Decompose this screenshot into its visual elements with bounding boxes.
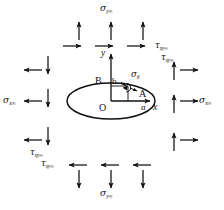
tau-xy-top-right-label-1: τxy∞ (155, 41, 168, 50)
origin-label: O (99, 103, 106, 113)
stress-diagram-canvas (0, 0, 224, 210)
sigma-y-bottom-label: σy∞ (100, 189, 112, 198)
sigma-x-right-label: σx∞ (199, 96, 211, 105)
y-axis-label: y (101, 49, 105, 59)
sigma-x-left-label: σx∞ (3, 96, 15, 105)
point-a-label: A (139, 89, 146, 99)
point-b-label: B (95, 76, 102, 86)
right-tension-arrows (180, 70, 198, 140)
tau-xy-bottom-left-label-2: τxy∞ (41, 159, 54, 168)
semi-axis-a-label: a (141, 103, 146, 112)
top-tension-arrows (79, 22, 143, 40)
semi-axis-b-label: b (112, 77, 117, 86)
left-tension-arrows (24, 70, 42, 140)
tau-xy-top-right-label-2: τxy∞ (161, 53, 174, 62)
sigma-y-top-label: σy∞ (100, 4, 112, 13)
x-axis-label: x (153, 103, 157, 113)
bottom-tension-arrows (79, 170, 143, 188)
sigma-theta-label: σθ (131, 70, 139, 79)
tau-xy-bottom-left-label-1: τxy∞ (30, 148, 43, 157)
